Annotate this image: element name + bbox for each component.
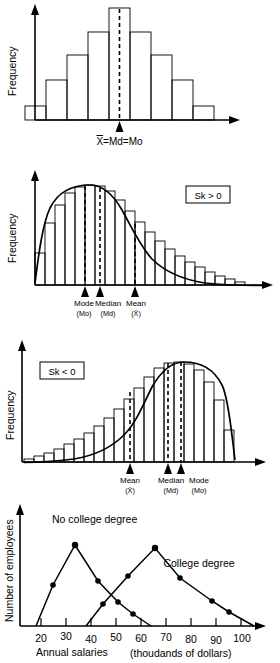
mean-label-negative-skew: Mean	[120, 476, 140, 485]
y-axis-symmetric	[31, 4, 39, 120]
skew-note-positive: Sk > 0	[186, 186, 230, 203]
mean-label-positive-skew: Mean	[126, 299, 146, 308]
median-symbol-positive-skew: (Md)	[101, 309, 116, 318]
x-axis-title-units-salaries: (thoudands of dollars)	[130, 647, 232, 659]
y-axis-negative-skew	[18, 340, 26, 462]
median-arrow-positive-skew	[96, 286, 104, 297]
x-axis-title-salaries: Annual salaries	[36, 646, 108, 658]
x-tick-label-70: 70	[160, 631, 172, 643]
mean-arrow-negative-skew	[126, 463, 134, 474]
x-tick-label-50: 50	[110, 631, 122, 643]
median-symbol-negative-skew: (Md)	[164, 486, 179, 495]
mode-label-negative-skew: Mode	[189, 476, 210, 485]
y-axis-label-positive-skew: Frequency	[6, 213, 18, 263]
statistics-figure: Frequency X=Md=Mo	[0, 0, 280, 663]
x-tick-label-90: 90	[210, 634, 222, 646]
mode-symbol-negative-skew: (Mo)	[192, 486, 207, 495]
mean-arrow-positive-skew	[131, 286, 139, 297]
mode-arrow-negative-skew	[177, 463, 185, 474]
mean-symbol-positive-skew: (X̄)	[131, 309, 141, 318]
svg-text:Sk < 0: Sk < 0	[48, 366, 75, 377]
mode-arrow-positive-skew	[81, 286, 89, 297]
panel-positive-skew: Frequency Sk > 0 Mode (Mo) Median (Md) M…	[6, 170, 273, 318]
median-label-negative-skew: Median	[158, 476, 184, 485]
panel-symmetric: Frequency X=Md=Mo	[6, 4, 240, 147]
median-label-positive-skew: Median	[95, 299, 121, 308]
y-axis-label-symmetric: Frequency	[6, 46, 18, 96]
x-tick-labels-salaries: 20 30 40 50 60 70 80 90 100	[35, 630, 251, 646]
series-label-no-college-degree: No college degree	[52, 513, 137, 525]
x-tick-label-40: 40	[85, 633, 97, 645]
panel-salaries: No college degree College degree Number …	[3, 504, 266, 659]
x-tick-label-100: 100	[233, 632, 251, 644]
x-tick-label-80: 80	[185, 633, 197, 645]
mode-label-positive-skew: Mode	[74, 299, 95, 308]
mean-symbol-negative-skew: (X̄)	[125, 486, 135, 495]
y-axis-label-negative-skew: Frequency	[4, 390, 16, 440]
y-axis-label-salaries: Number of employees	[3, 519, 15, 622]
x-axis-salaries	[20, 622, 266, 630]
series-no-college-degree	[36, 542, 151, 626]
x-tick-label-60: 60	[135, 632, 147, 644]
x-tick-label-30: 30	[60, 630, 72, 642]
skew-note-negative: Sk < 0	[40, 362, 84, 379]
series-label-college-degree: College degree	[163, 557, 234, 569]
panel-negative-skew: Frequency Sk < 0 Mean (X̄) Median (Md) M…	[4, 340, 266, 495]
mode-symbol-positive-skew: (Mo)	[77, 309, 92, 318]
x-tick-label-20: 20	[35, 632, 47, 644]
median-arrow-negative-skew	[164, 463, 172, 474]
y-axis-salaries	[16, 504, 24, 626]
center-stat-label-symmetric: X=Md=Mo	[96, 136, 143, 147]
center-arrow-symmetric	[116, 121, 124, 132]
svg-text:Sk > 0: Sk > 0	[194, 190, 221, 201]
